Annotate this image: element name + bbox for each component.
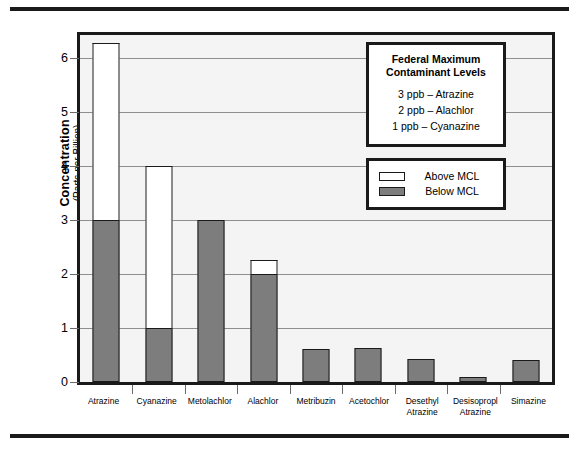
bar-segment-below-mcl [145, 328, 172, 382]
y-tick-mark-3 [70, 220, 79, 221]
x-axis-label: DesethylAtrazine [396, 396, 449, 417]
y-tick-mark-6 [70, 58, 79, 59]
above-mcl-swatch [379, 172, 405, 181]
mcl-legend-row: 1 ppb – Cyanazine [375, 119, 497, 135]
bar-segment-above-mcl [250, 260, 277, 274]
bar-slot [500, 35, 552, 382]
bar-desisopropl-atrazine[interactable] [460, 377, 487, 382]
bar-segment-below-mcl [198, 220, 225, 382]
x-axis-label: Metribuzin [289, 396, 342, 417]
x-axis-ticks-group [77, 385, 555, 394]
x-axis-tick [395, 385, 396, 394]
x-axis-label: Acetochlor [343, 396, 396, 417]
series-legend-item[interactable]: Below MCL [379, 185, 493, 197]
federal-mcl-legend-box: Federal MaximumContaminant Levels 3 ppb … [366, 42, 506, 147]
x-axis-tick [500, 385, 501, 394]
y-tick-mark-1 [70, 328, 79, 329]
bar-acetochlor[interactable] [355, 348, 382, 382]
top-divider-rule [10, 7, 569, 11]
y-tick-mark-5 [70, 112, 79, 113]
bar-segment-below-mcl [302, 349, 329, 383]
bottom-divider-rule [10, 434, 569, 438]
bar-segment-below-mcl [512, 360, 539, 382]
x-axis-tick [342, 385, 343, 394]
y-tick-mark-0 [70, 382, 79, 383]
series-legend-rows: Above MCLBelow MCL [379, 170, 493, 197]
bar-segment-above-mcl [93, 43, 120, 220]
bar-slot [185, 35, 237, 382]
mcl-legend-title: Federal MaximumContaminant Levels [375, 53, 497, 79]
bar-slot [132, 35, 184, 382]
x-axis-label: Alachlor [236, 396, 289, 417]
y-tick-mark-4 [70, 166, 79, 167]
bar-segment-below-mcl [250, 274, 277, 382]
below-mcl-swatch [379, 187, 405, 196]
bar-atrazine[interactable] [93, 43, 120, 382]
x-axis-tick [237, 385, 238, 394]
bar-metribuzin[interactable] [302, 349, 329, 383]
bar-segment-below-mcl [355, 348, 382, 382]
bar-desethyl-atrazine[interactable] [407, 359, 434, 382]
bar-segment-below-mcl [93, 220, 120, 382]
bar-slot [237, 35, 289, 382]
mcl-legend-row: 2 ppb – Alachlor [375, 103, 497, 119]
x-axis-labels-group: AtrazineCyanazineMetolachlorAlachlorMetr… [77, 396, 555, 417]
y-tick-mark-2 [70, 274, 79, 275]
x-axis-label: DesisoproplAtrazine [449, 396, 502, 417]
bar-segment-below-mcl [407, 359, 434, 382]
bar-alachlor[interactable] [250, 260, 277, 382]
series-legend-label: Below MCL [405, 185, 493, 197]
x-axis-label: Atrazine [77, 396, 130, 417]
series-legend-label: Above MCL [405, 170, 493, 182]
mcl-legend-row: 3 ppb – Atrazine [375, 87, 497, 103]
x-axis-label: Simazine [502, 396, 555, 417]
x-axis-label: Cyanazine [130, 396, 183, 417]
x-axis-tick [185, 385, 186, 394]
series-legend-box: Above MCLBelow MCL [366, 158, 506, 210]
x-axis-tick [132, 385, 133, 394]
bar-slot [290, 35, 342, 382]
bar-simazine[interactable] [512, 360, 539, 382]
x-axis-label: Metolachlor [183, 396, 236, 417]
bar-slot [80, 35, 132, 382]
mcl-legend-rows: 3 ppb – Atrazine2 ppb – Alachlor1 ppb – … [375, 87, 497, 134]
bar-metolachlor[interactable] [198, 220, 225, 382]
bar-cyanazine[interactable] [145, 166, 172, 382]
series-legend-item[interactable]: Above MCL [379, 170, 493, 182]
bar-segment-below-mcl [460, 377, 487, 382]
bar-segment-above-mcl [145, 166, 172, 328]
x-axis-tick [290, 385, 291, 394]
x-axis-tick [447, 385, 448, 394]
